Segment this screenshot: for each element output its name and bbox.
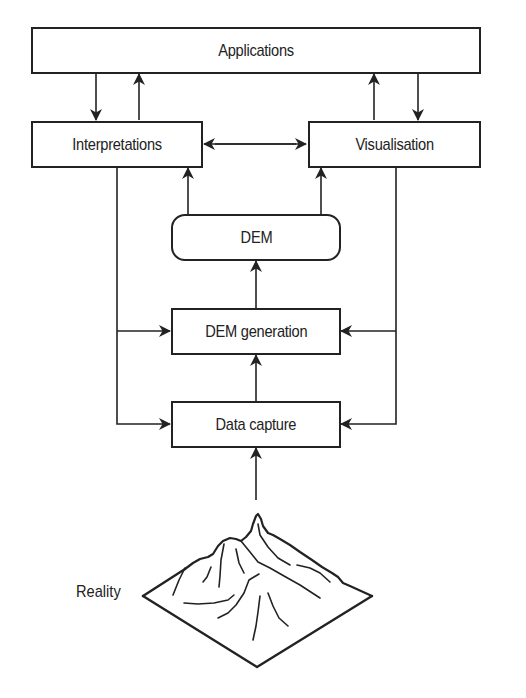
reality-text: Reality <box>76 582 121 602</box>
interpretations-box: Interpretations <box>31 121 203 168</box>
line-visualisation-feedback <box>341 168 396 424</box>
line-interpretations-feedback <box>117 168 170 424</box>
dem-label: DEM <box>240 228 272 248</box>
visualisation-label: Visualisation <box>355 135 433 155</box>
dem-box: DEM <box>171 214 341 261</box>
reality-label: Reality <box>76 582 128 602</box>
dem-generation-label: DEM generation <box>205 322 307 342</box>
data-capture-label: Data capture <box>216 415 297 435</box>
visualisation-box: Visualisation <box>308 121 481 168</box>
applications-box: Applications <box>31 27 481 74</box>
data-capture-box: Data capture <box>171 401 341 448</box>
mountain-terrain-icon <box>143 514 372 667</box>
dem-generation-box: DEM generation <box>171 308 341 355</box>
interpretations-label: Interpretations <box>72 135 162 155</box>
applications-label: Applications <box>218 41 294 61</box>
